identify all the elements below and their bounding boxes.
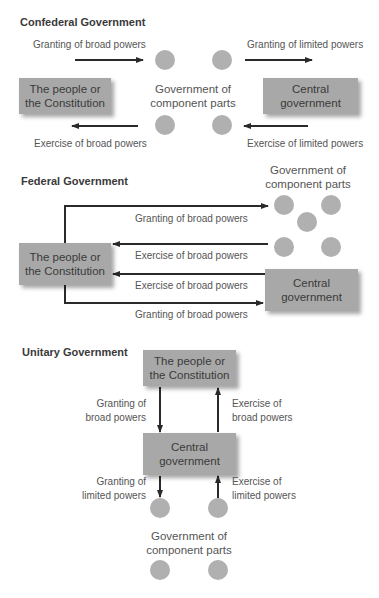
component-circle: [212, 50, 232, 70]
label-line: Exercise of: [232, 475, 296, 489]
label-line: limited powers: [232, 489, 296, 503]
unitary-title: Unitary Government: [22, 346, 128, 358]
label-line: Exercise of: [232, 397, 293, 411]
box-line: the Constitution: [143, 368, 236, 382]
label-line: component parts: [258, 177, 358, 191]
box-line: Central: [265, 276, 358, 290]
confederal-exercise-broad-label: Exercise of broad powers: [34, 138, 147, 149]
confederal-exercise-limited-label: Exercise of limited powers: [247, 138, 363, 149]
box-line: the Constitution: [19, 264, 111, 278]
unitary-central-box: Central government: [143, 433, 236, 475]
box-line: The people or: [143, 354, 236, 368]
box-line: Central: [263, 82, 358, 96]
label-line: Granting of: [70, 475, 146, 489]
label-line: component parts: [139, 543, 239, 557]
federal-granting-components-label: Granting of broad powers: [135, 213, 248, 224]
component-circle: [212, 115, 232, 135]
label-line: Granting of: [70, 397, 146, 411]
confederal-granting-broad-label: Granting of broad powers: [33, 39, 146, 50]
component-circle: [155, 115, 175, 135]
label-line: Government of: [139, 529, 239, 543]
unitary-exercise-broad-label: Exercise of broad powers: [232, 397, 293, 425]
box-line: The people or: [19, 82, 111, 96]
box-line: government: [263, 96, 358, 110]
component-circle: [150, 498, 170, 518]
component-circle: [274, 237, 294, 257]
confederal-granting-limited-label: Granting of limited powers: [247, 39, 363, 50]
component-circle: [208, 560, 228, 580]
federal-central-box: Central government: [265, 269, 358, 311]
unitary-granting-limited-label: Granting of limited powers: [70, 475, 146, 503]
confederal-title: Confederal Government: [20, 16, 145, 28]
unitary-granting-broad-label: Granting of broad powers: [70, 397, 146, 425]
federal-title: Federal Government: [21, 175, 128, 187]
box-line: the Constitution: [19, 96, 111, 110]
confederal-people-box: The people or the Constitution: [19, 78, 111, 114]
label-line: Government of: [258, 163, 358, 177]
confederal-components-label: Government of component parts: [143, 82, 243, 110]
label-line: Government of: [143, 82, 243, 96]
federal-exercise-central-label: Exercise of broad powers: [135, 280, 248, 291]
label-line: limited powers: [70, 489, 146, 503]
component-circle: [150, 560, 170, 580]
federal-people-box: The people or the Constitution: [19, 243, 111, 285]
unitary-components-label: Government of component parts: [139, 529, 239, 557]
confederal-central-box: Central government: [263, 78, 358, 114]
component-circle: [274, 195, 294, 215]
federal-granting-central-label: Granting of broad powers: [135, 309, 248, 320]
component-circle: [321, 237, 341, 257]
unitary-people-box: The people or the Constitution: [143, 350, 236, 386]
federal-exercise-components-label: Exercise of broad powers: [135, 250, 248, 261]
component-circle: [297, 212, 317, 232]
box-line: Central: [143, 440, 236, 454]
unitary-exercise-limited-label: Exercise of limited powers: [232, 475, 296, 503]
box-line: The people or: [19, 250, 111, 264]
box-line: government: [265, 290, 358, 304]
label-line: broad powers: [232, 411, 293, 425]
component-circle: [208, 498, 228, 518]
component-circle: [155, 50, 175, 70]
federal-components-label: Government of component parts: [258, 163, 358, 191]
component-circle: [321, 195, 341, 215]
label-line: component parts: [143, 96, 243, 110]
label-line: broad powers: [70, 411, 146, 425]
box-line: government: [143, 454, 236, 468]
